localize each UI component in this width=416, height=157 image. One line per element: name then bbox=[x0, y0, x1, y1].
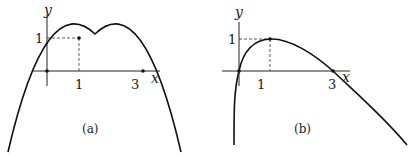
y-tick-1: 1 bbox=[228, 32, 236, 47]
point-3-0 bbox=[331, 69, 335, 73]
caption-b: (b) bbox=[294, 122, 311, 136]
point-1-1 bbox=[77, 36, 81, 40]
panel-a: y x 1 1 3 (a) bbox=[8, 2, 181, 152]
point-1-1 bbox=[268, 37, 272, 41]
caption-a: (a) bbox=[82, 122, 99, 136]
x-tick-1: 1 bbox=[257, 77, 265, 92]
panel-b: y x 1 1 3 (b) bbox=[222, 4, 407, 145]
y-axis-label: y bbox=[234, 4, 244, 20]
x-axis-label: x bbox=[151, 70, 159, 86]
figure-canvas: y x 1 1 3 (a) y x 1 1 3 (b) bbox=[0, 0, 416, 157]
point-origin bbox=[237, 69, 241, 73]
point-3-0 bbox=[141, 69, 145, 73]
x-tick-3: 3 bbox=[131, 77, 139, 92]
x-tick-1: 1 bbox=[75, 77, 83, 92]
y-axis-label: y bbox=[43, 2, 53, 18]
point-origin bbox=[45, 69, 49, 73]
x-tick-3: 3 bbox=[328, 77, 336, 92]
y-tick-1: 1 bbox=[35, 31, 43, 46]
x-axis-label: x bbox=[342, 69, 350, 85]
